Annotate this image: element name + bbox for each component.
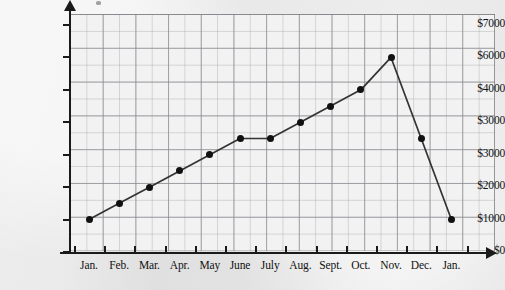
chart-screenshot: Bank balance $0$1000$2000$3000$3000$4000… xyxy=(0,0,505,290)
x-tick-label: Mar. xyxy=(139,259,160,271)
y-tick-mark xyxy=(63,56,71,58)
y-tick-label: $0 xyxy=(447,244,505,256)
x-tick-label: Feb. xyxy=(109,259,129,271)
scan-artifact-speck xyxy=(96,1,101,5)
x-tick-mark xyxy=(316,246,318,254)
y-tick-label: $3000 xyxy=(447,147,505,159)
x-tick-mark xyxy=(104,246,106,254)
y-tick-label: $2000 xyxy=(447,179,505,191)
data-point-marker xyxy=(297,119,304,126)
y-tick-label: $7000 xyxy=(447,17,505,29)
y-tick-mark xyxy=(63,154,71,156)
x-tick-mark xyxy=(255,246,257,254)
x-tick-label: Jan. xyxy=(80,259,98,271)
x-tick-label: Oct. xyxy=(351,259,370,271)
y-tick-label: $4000 xyxy=(447,82,505,94)
y-tick-mark xyxy=(63,89,71,91)
x-tick-mark xyxy=(74,246,76,254)
y-tick-label: $6000 xyxy=(447,49,505,61)
y-tick-mark xyxy=(63,121,71,123)
y-tick-mark xyxy=(63,186,71,188)
x-tick-mark xyxy=(376,246,378,254)
y-tick-label: $3000 xyxy=(447,114,505,126)
x-tick-label: Dec. xyxy=(411,259,432,271)
y-axis-arrowhead-icon xyxy=(64,0,76,11)
data-point-marker xyxy=(327,103,334,110)
x-tick-label: June xyxy=(230,259,251,271)
data-point-marker xyxy=(448,216,455,223)
x-tick-label: May xyxy=(199,259,220,271)
x-tick-label: Jan. xyxy=(442,259,460,271)
x-tick-mark xyxy=(467,246,469,254)
x-tick-mark xyxy=(134,246,136,254)
data-point-marker xyxy=(116,200,123,207)
y-tick-mark xyxy=(63,251,71,253)
minor-gridlines xyxy=(70,14,495,251)
x-axis-line xyxy=(60,252,488,254)
x-tick-mark xyxy=(165,246,167,254)
x-tick-mark xyxy=(285,246,287,254)
data-point-marker xyxy=(237,135,244,142)
y-axis-line xyxy=(69,8,71,254)
x-tick-mark xyxy=(195,246,197,254)
data-point-marker xyxy=(146,184,153,191)
data-point-marker xyxy=(418,135,425,142)
major-gridlines xyxy=(70,14,495,251)
x-tick-label: July xyxy=(261,259,280,271)
plot-area xyxy=(70,14,495,251)
data-point-marker xyxy=(267,135,274,142)
x-tick-label: Nov. xyxy=(380,259,402,271)
y-tick-label: $1000 xyxy=(447,212,505,224)
x-tick-label: Apr. xyxy=(170,259,190,271)
x-tick-mark xyxy=(436,246,438,254)
x-tick-mark xyxy=(346,246,348,254)
data-point-marker xyxy=(86,216,93,223)
x-tick-label: Sept. xyxy=(319,259,342,271)
x-tick-mark xyxy=(406,246,408,254)
x-tick-label: Aug. xyxy=(289,259,311,271)
x-tick-mark xyxy=(225,246,227,254)
y-tick-mark xyxy=(63,219,71,221)
data-point-marker xyxy=(388,54,395,61)
y-tick-mark xyxy=(63,24,71,26)
plot-border-top xyxy=(70,14,495,15)
